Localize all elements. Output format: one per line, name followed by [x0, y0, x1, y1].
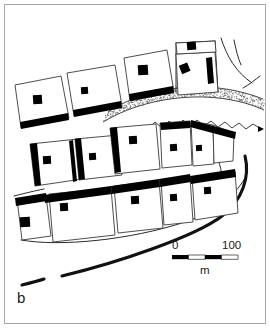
stipple-dot — [113, 112, 114, 113]
stipple-dot — [250, 96, 251, 97]
stipple-dot — [263, 99, 264, 100]
stipple-dot — [117, 112, 118, 113]
stipple-dot — [129, 104, 130, 105]
enclosure-r1-c3[interactable] — [124, 50, 174, 101]
enclosure-r1-c2[interactable] — [67, 65, 122, 117]
stipple-dot — [247, 101, 248, 102]
enclosure-r3-c3[interactable] — [111, 179, 163, 233]
stipple-dot — [247, 103, 248, 104]
scale-bar-segment — [222, 255, 239, 259]
stipple-dot — [223, 95, 224, 96]
enclosure-r1-c4[interactable] — [176, 52, 218, 95]
stipple-dot — [161, 97, 162, 98]
enclosure-r3-c4[interactable] — [159, 174, 193, 225]
stipple-dot — [222, 94, 223, 95]
stipple-dot — [251, 95, 252, 96]
enclosure-r2-c3[interactable] — [110, 124, 160, 174]
stipple-dot — [167, 96, 168, 97]
stipple-dot — [237, 94, 238, 95]
stipple-dot — [230, 94, 231, 95]
stipple-dot — [252, 102, 253, 103]
stipple-dot — [225, 98, 226, 99]
stipple-dot — [225, 95, 226, 96]
stipple-dot — [241, 95, 242, 96]
stipple-dot — [107, 116, 108, 117]
stipple-dot — [114, 116, 115, 117]
stipple-dot — [148, 102, 149, 103]
hearth-marker — [204, 187, 211, 194]
stipple-dot — [108, 115, 109, 116]
stipple-dot — [163, 97, 164, 98]
stipple-dot — [199, 94, 200, 95]
stipple-dot — [132, 104, 133, 105]
stipple-dot — [256, 97, 257, 98]
scale-bar-segment — [172, 255, 189, 259]
stipple-dot — [224, 91, 225, 92]
stipple-dot — [220, 96, 221, 97]
stipple-dot — [117, 109, 118, 110]
stipple-dot — [209, 94, 210, 95]
stipple-dot — [226, 93, 227, 94]
stipple-dot — [145, 101, 146, 102]
stipple-dot — [256, 99, 257, 100]
stipple-dot — [144, 99, 145, 100]
stipple-dot — [117, 114, 118, 115]
enclosure-r1-c5[interactable] — [176, 41, 216, 54]
stipple-dot — [125, 107, 126, 108]
hearth-marker — [170, 144, 177, 151]
stipple-dot — [181, 95, 182, 96]
stipple-dot — [170, 98, 171, 99]
stipple-dot — [210, 93, 211, 94]
stipple-dot — [245, 99, 246, 100]
stipple-dot — [170, 97, 171, 98]
stipple-dot — [124, 108, 125, 109]
stipple-dot — [252, 103, 253, 104]
stipple-dot — [172, 97, 173, 98]
stipple-dot — [124, 105, 125, 106]
figure-panel: b 0 100 m — [0, 0, 270, 328]
stipple-dot — [220, 89, 221, 90]
stipple-dot — [248, 98, 249, 99]
stipple-dot — [138, 105, 139, 106]
stipple-dot — [151, 99, 152, 100]
stipple-dot — [172, 98, 173, 99]
enclosure-r3-c5[interactable] — [190, 169, 238, 220]
stipple-dot — [112, 113, 113, 114]
stipple-dot — [238, 92, 239, 93]
stipple-dot — [172, 94, 173, 95]
stipple-dot — [253, 101, 254, 102]
hearth-marker — [170, 194, 177, 201]
site-plan-map — [0, 0, 270, 328]
stipple-dot — [128, 108, 129, 109]
enclosure-r2-c4[interactable] — [160, 121, 192, 168]
stipple-dot — [205, 96, 206, 97]
stipple-dot — [207, 94, 208, 95]
stipple-dot — [245, 94, 246, 95]
stipple-dot — [258, 102, 259, 103]
stipple-dot — [110, 114, 111, 115]
stipple-dot — [136, 100, 137, 101]
stipple-dot — [157, 97, 158, 98]
enclosure-r3-c2[interactable] — [44, 186, 115, 242]
stipple-dot — [236, 93, 237, 94]
stipple-dot — [174, 95, 175, 96]
stipple-dot — [127, 103, 128, 104]
stipple-dot — [141, 100, 142, 101]
stipple-dot — [221, 97, 222, 98]
scale-bar-segment — [189, 255, 206, 259]
stipple-dot — [126, 105, 127, 106]
stipple-dot — [126, 109, 127, 110]
stipple-dot — [114, 110, 115, 111]
stipple-dot — [228, 91, 229, 92]
stipple-dot — [149, 100, 150, 101]
enclosure-r1-c1[interactable] — [15, 76, 69, 129]
stipple-dot — [144, 99, 145, 100]
stipple-dot — [191, 95, 192, 96]
stipple-dot — [140, 101, 141, 102]
stipple-dot — [176, 98, 177, 99]
stipple-dot — [236, 96, 237, 97]
stipple-dot — [231, 97, 232, 98]
stipple-dot — [172, 97, 173, 98]
stipple-dot — [225, 93, 226, 94]
stipple-dot — [227, 94, 228, 95]
